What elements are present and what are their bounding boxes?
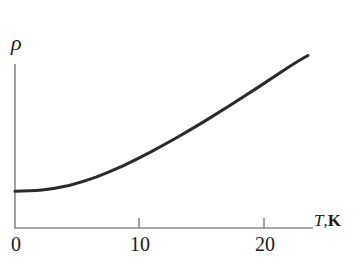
plot-canvas <box>0 0 361 268</box>
resistivity-curve <box>15 56 308 192</box>
x-tick-label-20: 20 <box>247 234 283 254</box>
x-tick-label-10: 10 <box>122 234 158 254</box>
y-axis-label: ρ <box>11 32 22 54</box>
x-axis-label: T,K <box>314 212 341 229</box>
x-axis-unit: K <box>328 211 341 230</box>
x-tick-label-0: 0 <box>7 234 25 254</box>
chart-figure: ρ T,K 0 10 20 <box>0 0 361 268</box>
